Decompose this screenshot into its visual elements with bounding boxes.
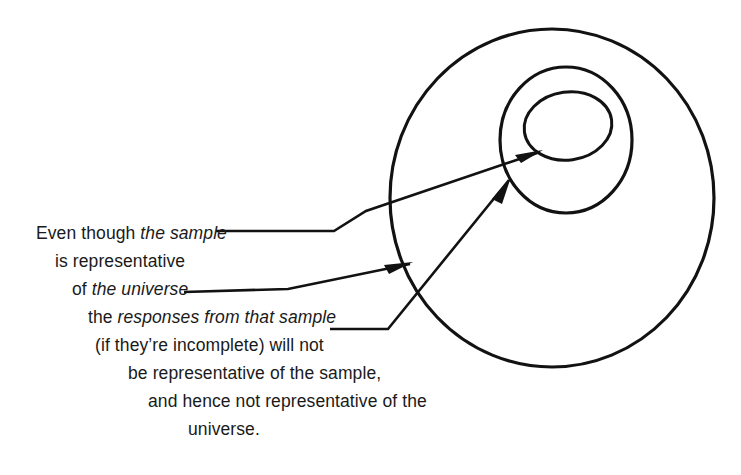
leader-the-universe bbox=[184, 264, 410, 292]
nested-circles-diagram bbox=[0, 0, 741, 475]
leader-the-sample bbox=[216, 152, 540, 231]
arrowhead-the-sample bbox=[515, 150, 543, 163]
arrowhead-that-sample bbox=[492, 177, 511, 204]
sample-circle bbox=[500, 67, 632, 213]
leader-that-sample bbox=[330, 180, 509, 329]
arrowhead-the-universe bbox=[384, 262, 413, 274]
universe-circle bbox=[390, 29, 714, 367]
figure-canvas: Even though the sample is representative… bbox=[0, 0, 741, 475]
